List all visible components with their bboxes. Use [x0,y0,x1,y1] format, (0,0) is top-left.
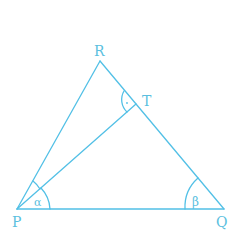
label-t: T [142,93,152,109]
label-p: P [12,214,21,230]
segment-pr [17,61,100,209]
diagram-canvas: R T P Q α β [0,0,236,230]
segment-rq [100,61,224,209]
label-alpha: α [34,196,42,209]
triangle-figure: R T P Q α β [0,0,236,230]
label-beta: β [192,195,199,209]
angle-arc-p-upper [33,181,40,189]
right-angle-dot [126,102,128,104]
label-r: R [94,43,105,59]
segment-pt [17,104,136,209]
angle-arc-t [122,91,127,112]
angle-arc-alpha [41,188,50,209]
label-q: Q [216,214,227,230]
